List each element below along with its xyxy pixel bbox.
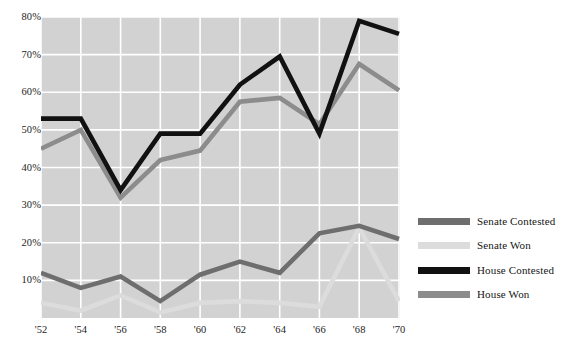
x-axis-tick-60: '60 (180, 325, 220, 336)
x-axis-tick-64: '64 (260, 325, 300, 336)
legend-swatch-icon (418, 242, 470, 249)
x-axis-tick-70: '70 (379, 325, 419, 336)
legend-item: House Won (418, 283, 582, 308)
legend-item: House Contested (418, 258, 582, 283)
legend-label: Senate Contested (477, 216, 555, 227)
legend-swatch-icon (418, 291, 470, 298)
legend-label: House Contested (477, 265, 554, 276)
legend-item: Senate Won (418, 234, 582, 259)
legend-swatch-icon (418, 267, 470, 274)
x-axis-tick-52: '52 (21, 325, 61, 336)
line-chart: 10%20%30%40%50%60%70%80% '52'54'56'58'60… (0, 0, 582, 356)
chart-legend: Senate ContestedSenate WonHouse Conteste… (418, 209, 582, 307)
x-axis-tick-66: '66 (299, 325, 339, 336)
legend-item: Senate Contested (418, 209, 582, 234)
x-axis-tick-54: '54 (61, 325, 101, 336)
legend-label: Senate Won (477, 240, 531, 251)
x-axis-tick-68: '68 (339, 325, 379, 336)
x-axis-tick-58: '58 (140, 325, 180, 336)
x-axis-tick-62: '62 (220, 325, 260, 336)
legend-label: House Won (477, 289, 530, 300)
x-axis-tick-56: '56 (101, 325, 141, 336)
legend-swatch-icon (418, 218, 470, 225)
